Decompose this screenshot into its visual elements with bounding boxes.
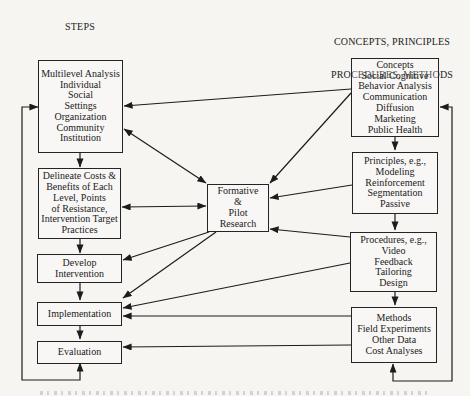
- arrow-procedures-to-implementation: [123, 263, 350, 308]
- arrow-procedures-to-formative: [270, 229, 350, 237]
- cropped-caption-sliver: [40, 391, 430, 395]
- arrow-multilevel-formative-two-way: [124, 129, 206, 183]
- box-formative-pilot-research: Formative & Pilot Research: [207, 184, 269, 232]
- box-evaluation: Evaluation: [37, 341, 122, 364]
- box-line: Research: [220, 219, 257, 230]
- box-line: Intervention: [55, 269, 104, 280]
- box-methods: Methods Field Experiments Other Data Cos…: [351, 307, 437, 363]
- box-line: Modeling: [376, 167, 415, 178]
- box-line: Institution: [60, 133, 101, 144]
- box-line: Passive: [380, 199, 410, 210]
- box-line: Design: [379, 278, 407, 289]
- box-delineate-costs: Delineate Costs & Benefits of Each Level…: [38, 168, 121, 239]
- box-line: Evaluation: [58, 347, 101, 358]
- arrow-concepts-to-formative: [270, 93, 351, 183]
- box-line: Cost Analyses: [366, 346, 423, 357]
- box-line: Concepts: [376, 60, 413, 71]
- box-multilevel-analysis: Multilevel Analysis Individual Social Se…: [38, 60, 123, 153]
- box-develop-intervention: Develop Intervention: [37, 254, 122, 283]
- arrow-formative-to-implementation: [123, 232, 216, 298]
- box-line: Video: [382, 246, 406, 257]
- box-principles: Principles, e.g., Modeling Reinforcement…: [352, 152, 438, 214]
- box-line: Marketing: [374, 114, 416, 125]
- arrow-principles-to-formative: [270, 185, 352, 198]
- box-procedures: Procedures, e.g., Video Feedback Tailori…: [350, 232, 437, 292]
- box-line: Level, Points: [53, 193, 106, 204]
- box-line: Public Health: [368, 125, 423, 136]
- arrow-delineate-formative-two-way: [122, 206, 206, 207]
- box-line: Develop: [63, 258, 97, 269]
- box-implementation: Implementation: [37, 302, 122, 326]
- arrow-concepts-to-multilevel: [124, 89, 351, 106]
- flow-diagram: STEPS CONCEPTS, PRINCIPLES PROCEDURES, M…: [0, 0, 470, 396]
- box-line: Implementation: [48, 309, 111, 320]
- box-line: Multilevel Analysis: [41, 69, 120, 80]
- arrow-methods-to-evaluation: [123, 345, 351, 347]
- box-line: Practices: [61, 225, 97, 236]
- box-concepts: Concepts Social Cognitive Behavior Analy…: [351, 58, 439, 137]
